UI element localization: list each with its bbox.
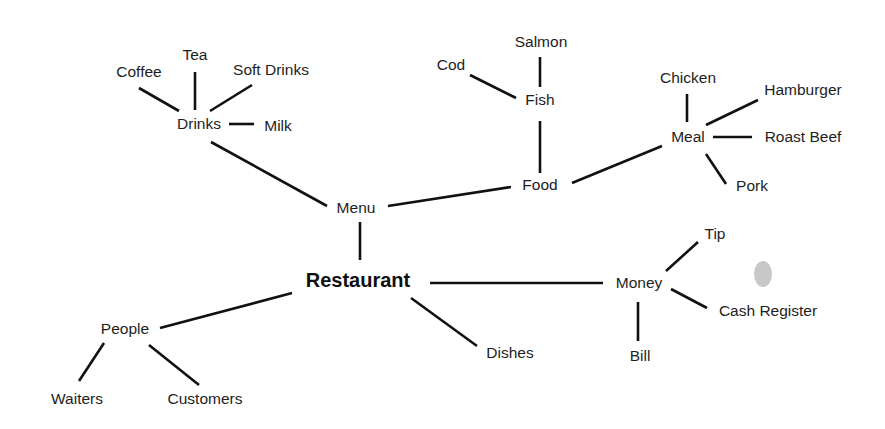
node-menu: Menu <box>337 199 376 216</box>
node-customers: Customers <box>168 390 243 407</box>
edge-meal-pork <box>706 154 726 184</box>
node-drinks: Drinks <box>177 115 221 132</box>
edge-restaurant-dishes <box>411 298 477 346</box>
edge-people-customers <box>149 345 199 385</box>
edge-food-meal <box>572 146 662 183</box>
node-pork: Pork <box>736 177 768 194</box>
node-restaurant: Restaurant <box>306 269 411 291</box>
node-salmon: Salmon <box>515 33 568 50</box>
edge-money-cash-register <box>671 289 707 308</box>
node-cod: Cod <box>437 56 465 73</box>
node-fish: Fish <box>525 91 554 108</box>
edge-coffee-drinks <box>139 88 179 111</box>
restaurant-semantic-network: RestaurantMenuDrinksCoffeeTeaSoft Drinks… <box>0 0 885 429</box>
node-hamburger: Hamburger <box>764 81 842 98</box>
node-milk: Milk <box>264 117 292 134</box>
edge-people-waiters <box>79 343 104 381</box>
node-tea: Tea <box>183 46 208 63</box>
node-food: Food <box>522 176 557 193</box>
edge-soft-drinks-drinks <box>210 85 252 111</box>
nodes-layer: RestaurantMenuDrinksCoffeeTeaSoft Drinks… <box>51 33 842 407</box>
node-money: Money <box>616 274 663 291</box>
node-roast-beef: Roast Beef <box>765 128 842 145</box>
node-tip: Tip <box>705 225 726 242</box>
node-dishes: Dishes <box>486 344 534 361</box>
edges-layer <box>79 57 758 385</box>
node-chicken: Chicken <box>660 69 716 86</box>
edge-cod-fish <box>470 75 516 98</box>
node-people: People <box>101 320 149 337</box>
edge-restaurant-people <box>160 293 292 328</box>
edge-meal-hamburger <box>706 100 758 125</box>
node-coffee: Coffee <box>116 63 161 80</box>
edge-money-tip <box>666 242 698 271</box>
node-bill: Bill <box>630 347 651 364</box>
node-meal: Meal <box>671 128 705 145</box>
node-cash-register: Cash Register <box>719 302 817 319</box>
print-smudge <box>754 261 772 287</box>
edge-drinks-menu <box>211 142 327 206</box>
node-waiters: Waiters <box>51 390 103 407</box>
edge-menu-food <box>388 187 511 206</box>
node-soft-drinks: Soft Drinks <box>233 61 309 78</box>
